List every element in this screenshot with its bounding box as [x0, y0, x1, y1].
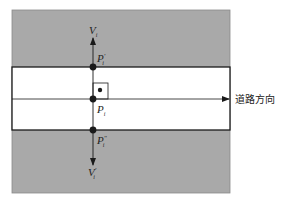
point-p-upper — [90, 64, 97, 71]
road-band — [12, 67, 230, 130]
label-road-direction: 道路方向 — [235, 93, 275, 105]
right-angle-dot — [98, 88, 102, 92]
point-p-lower — [90, 127, 97, 134]
point-p-center — [90, 96, 97, 103]
road-diagram: Vi P'i Pi P"i V'i 道路方向 — [0, 0, 286, 201]
